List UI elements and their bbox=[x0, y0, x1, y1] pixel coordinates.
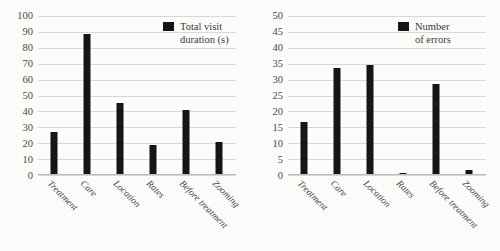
x-axis-tick-label: Treatment bbox=[46, 179, 80, 213]
y-axis-tick-label: 0 bbox=[278, 171, 283, 182]
legend-label-left: Total visit duration (s) bbox=[180, 20, 229, 46]
bar-slot bbox=[453, 16, 486, 175]
y-axis-tick-label: 0 bbox=[28, 171, 33, 182]
bar-slot bbox=[38, 16, 71, 175]
gridline: 0 bbox=[38, 175, 236, 176]
bar-slot bbox=[321, 16, 354, 175]
y-axis-tick-label: 40 bbox=[23, 107, 34, 118]
y-axis-tick-label: 30 bbox=[273, 75, 284, 86]
y-axis-tick-label: 20 bbox=[23, 139, 34, 150]
legend-label-left-line1: Total visit bbox=[180, 20, 229, 33]
x-axis-tick-label: Rates bbox=[145, 179, 167, 201]
legend-label-left-line2: duration (s) bbox=[180, 33, 229, 46]
x-axis-tick-label: Location bbox=[112, 179, 143, 210]
bar bbox=[183, 110, 190, 175]
bar bbox=[334, 68, 341, 175]
bar bbox=[301, 122, 308, 175]
bar bbox=[150, 145, 157, 175]
x-axis-labels-right: TreatmentCareLocationRatesBefore treatme… bbox=[288, 177, 486, 251]
x-axis-tick-label: Zooming bbox=[461, 179, 492, 210]
y-axis-tick-label: 5 bbox=[278, 155, 283, 166]
bar bbox=[51, 132, 58, 175]
plot-area-right: 05101520253035404550 bbox=[288, 16, 486, 175]
legend-right: Number of errors bbox=[398, 20, 451, 46]
y-axis-tick-label: 35 bbox=[273, 59, 284, 70]
y-axis-tick-label: 10 bbox=[23, 155, 34, 166]
legend-left: Total visit duration (s) bbox=[163, 20, 229, 46]
y-axis-tick-label: 15 bbox=[273, 123, 284, 134]
x-axis-tick-label: Treatment bbox=[296, 179, 330, 213]
bar-group-right bbox=[288, 16, 486, 175]
legend-label-right: Number of errors bbox=[415, 20, 451, 46]
legend-swatch-icon-right bbox=[398, 22, 409, 31]
bar-slot bbox=[354, 16, 387, 175]
x-axis-tick-label: Care bbox=[329, 179, 349, 199]
x-axis-labels-left: TreatmentCareLocationRatesBefore treatme… bbox=[38, 177, 236, 251]
bar bbox=[84, 34, 91, 176]
x-axis-tick-label: Location bbox=[362, 179, 393, 210]
chart-number-of-errors: 05101520253035404550 TreatmentCareLocati… bbox=[250, 0, 500, 251]
legend-swatch-icon-left bbox=[163, 22, 174, 31]
y-axis-tick-label: 60 bbox=[23, 75, 34, 86]
y-axis-tick-label: 70 bbox=[23, 59, 34, 70]
bar-slot bbox=[288, 16, 321, 175]
y-axis-tick-label: 90 bbox=[23, 27, 34, 38]
x-axis-tick-label: Care bbox=[79, 179, 99, 199]
y-axis-tick-label: 10 bbox=[273, 139, 284, 150]
y-axis-tick-label: 20 bbox=[273, 107, 284, 118]
gridline: 0 bbox=[288, 175, 486, 176]
chart-total-visit-duration: 0102030405060708090100 TreatmentCareLoca… bbox=[0, 0, 250, 251]
y-axis-tick-label: 50 bbox=[273, 11, 284, 22]
bar bbox=[216, 142, 223, 175]
x-axis-tick-label: Zooming bbox=[211, 179, 242, 210]
figure-two-bar-charts: 0102030405060708090100 TreatmentCareLoca… bbox=[0, 0, 500, 251]
y-axis-tick-label: 50 bbox=[23, 91, 34, 102]
bar bbox=[433, 84, 440, 175]
x-axis-tick-label: Rates bbox=[395, 179, 417, 201]
bar bbox=[367, 65, 374, 175]
legend-label-right-line2: of errors bbox=[415, 33, 451, 46]
bar-slot bbox=[104, 16, 137, 175]
legend-label-right-line1: Number bbox=[415, 20, 451, 33]
bar-slot bbox=[71, 16, 104, 175]
y-axis-tick-label: 100 bbox=[17, 11, 33, 22]
axis-baseline-left bbox=[38, 174, 236, 175]
y-axis-tick-label: 45 bbox=[273, 27, 284, 38]
bar bbox=[117, 103, 124, 175]
y-axis-tick-label: 25 bbox=[273, 91, 284, 102]
axis-baseline-right bbox=[288, 174, 486, 175]
y-axis-tick-label: 80 bbox=[23, 43, 34, 54]
y-axis-tick-label: 40 bbox=[273, 43, 284, 54]
y-axis-tick-label: 30 bbox=[23, 123, 34, 134]
